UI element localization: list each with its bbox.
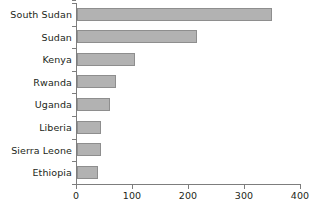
- y-axis-category-label: Sudan: [42, 32, 72, 43]
- y-axis-category-label: South Sudan: [10, 9, 72, 20]
- x-axis-tick-label: 400: [291, 190, 309, 201]
- x-axis-tick-label: 0: [73, 190, 79, 201]
- y-axis-tick: [72, 48, 76, 49]
- bar-sierra-leone: [77, 143, 101, 156]
- y-axis-tick: [72, 3, 76, 4]
- y-axis-category-label: Uganda: [35, 99, 72, 110]
- y-axis-category-label: Ethiopia: [33, 167, 73, 178]
- y-axis-tick: [72, 71, 76, 72]
- y-axis-tick: [72, 26, 76, 27]
- x-axis-tick-label: 300: [235, 190, 253, 201]
- y-axis-tick: [72, 116, 76, 117]
- y-axis-tick: [72, 0, 76, 1]
- y-axis-category-label: Liberia: [39, 122, 72, 133]
- bar-liberia: [77, 121, 101, 134]
- x-axis-tick: [188, 185, 189, 189]
- bar-rwanda: [77, 75, 116, 88]
- y-axis-tick: [72, 161, 76, 162]
- bar-kenya: [77, 53, 135, 66]
- y-axis-category-label: Kenya: [42, 54, 72, 65]
- bar-uganda: [77, 98, 110, 111]
- y-axis-category-label: Sierra Leone: [11, 145, 72, 156]
- bar-sudan: [77, 30, 197, 43]
- y-axis-category-label: Rwanda: [33, 77, 72, 88]
- x-axis-tick: [76, 185, 77, 189]
- plot-area: South Sudan Sudan Kenya Rwanda Uganda Li…: [0, 0, 318, 209]
- x-axis-tick-label: 100: [123, 190, 141, 201]
- bar-ethiopia: [77, 166, 98, 179]
- x-axis-tick: [132, 185, 133, 189]
- y-axis-tick: [72, 93, 76, 94]
- y-axis-tick: [72, 139, 76, 140]
- x-axis-tick-label: 200: [179, 190, 197, 201]
- x-axis-tick: [300, 185, 301, 189]
- bar-south-sudan: [77, 8, 272, 21]
- x-axis-tick: [244, 185, 245, 189]
- bar-chart: South Sudan Sudan Kenya Rwanda Uganda Li…: [0, 0, 318, 209]
